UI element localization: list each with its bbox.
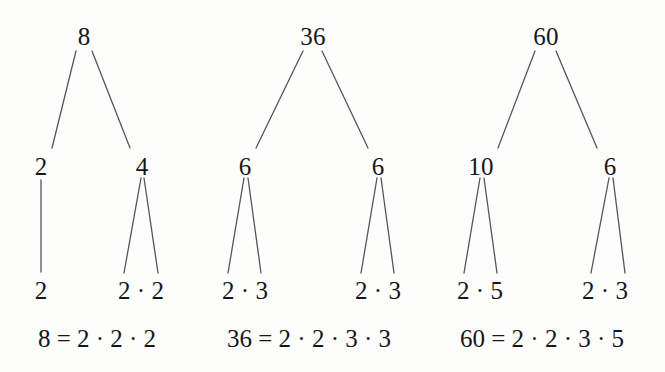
tree-edge (124, 178, 141, 273)
tree-edges-layer (0, 0, 665, 372)
tree-root-node: 8 (78, 24, 91, 49)
tree-leaf-node: 2 · 2 (118, 278, 164, 303)
tree-edge (464, 178, 480, 273)
tree-root-node: 36 (300, 24, 325, 49)
tree-child-node: 4 (136, 154, 149, 179)
factorization-equation: 60 = 2 · 2 · 3 · 5 (460, 326, 624, 351)
tree-edge (52, 51, 76, 148)
tree-edge (381, 178, 394, 273)
factorization-equation: 36 = 2 · 2 · 3 · 3 (227, 326, 391, 351)
tree-leaf-node: 2 · 3 (355, 278, 401, 303)
tree-child-node: 6 (604, 154, 617, 179)
tree-edge (256, 51, 303, 148)
tree-edge (92, 51, 130, 148)
tree-child-node: 2 (35, 154, 48, 179)
factor-tree-figure: 82422 · 28 = 2 · 2 · 236662 · 32 · 336 =… (0, 0, 665, 372)
tree-root-node: 60 (533, 24, 558, 49)
tree-edge (248, 178, 261, 273)
tree-edge (484, 178, 497, 273)
tree-leaf-node: 2 · 5 (457, 278, 503, 303)
tree-edge (591, 178, 609, 273)
tree-edge (613, 178, 625, 273)
tree-child-node: 6 (372, 154, 385, 179)
tree-child-node: 10 (468, 154, 493, 179)
tree-edge (556, 51, 597, 148)
tree-edge (361, 178, 377, 273)
factorization-equation: 8 = 2 · 2 · 2 (38, 326, 156, 351)
tree-edge (498, 51, 535, 148)
tree-edge (144, 178, 158, 273)
tree-child-node: 6 (239, 154, 252, 179)
tree-edge (228, 178, 244, 273)
tree-leaf-node: 2 · 3 (222, 278, 268, 303)
tree-leaf-node: 2 · 3 (582, 278, 628, 303)
tree-edge (322, 51, 368, 148)
tree-leaf-node: 2 (35, 278, 48, 303)
